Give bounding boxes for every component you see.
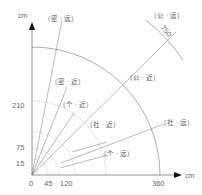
ray-intimate-far (32, 20, 62, 175)
proxemics-diagram: cm cm 0 45 120 360 15 75 210 （密 · 远） （密 … (0, 0, 202, 195)
y-tick-210: 210 (12, 101, 25, 110)
x-tick-0: 0 (29, 179, 33, 188)
x-axis-unit: cm (185, 172, 195, 179)
x-axis-arrow-icon (174, 172, 182, 178)
x-tick-120: 120 (60, 179, 73, 188)
label-personal-near: （个 · 近） (59, 100, 93, 109)
label-intimate-far: （密 · 远） (44, 14, 78, 23)
label-public-far: （公 · 远） (150, 12, 184, 20)
y-axis-arrow-icon (29, 22, 35, 30)
label-social-near: （社 · 近） (86, 120, 120, 129)
label-intimate-near: （密 · 近） (51, 77, 85, 86)
y-tick-75: 75 (16, 143, 24, 152)
x-tick-45: 45 (44, 179, 52, 188)
y-tick-15: 15 (16, 159, 24, 168)
label-social-far: （社 · 远） (160, 118, 194, 127)
y-axis-unit: cm (18, 12, 28, 19)
x-tick-360: 360 (152, 179, 165, 188)
label-public-near: （公 · 近） (126, 73, 160, 82)
label-personal-far: （个 · 远） (100, 150, 134, 158)
